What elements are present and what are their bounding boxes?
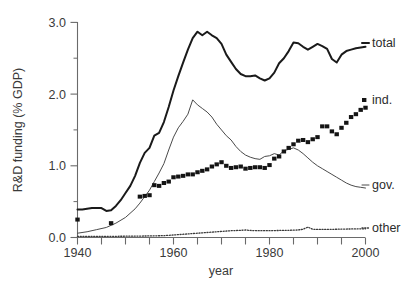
- data-point: [195, 170, 199, 174]
- series-label-other: other: [372, 221, 401, 235]
- data-point: [75, 218, 79, 222]
- chart-canvas: 0.0 1.0 2.0 3.0 1940 1960 1980 2000 R&D …: [0, 0, 415, 286]
- data-point: [176, 175, 180, 179]
- data-point: [243, 167, 247, 171]
- data-point: [277, 154, 281, 158]
- y-axis-minor-ticks: [74, 58, 78, 201]
- data-point: [287, 146, 291, 150]
- data-point: [152, 183, 156, 187]
- data-point: [186, 172, 190, 176]
- data-point: [234, 165, 238, 169]
- data-point: [258, 165, 262, 169]
- x-tick-label-2000: 2000: [352, 246, 380, 260]
- data-point: [363, 106, 367, 110]
- series-total-line: [78, 32, 366, 211]
- data-point: [359, 108, 363, 112]
- data-point: [138, 195, 142, 199]
- data-point: [239, 165, 243, 169]
- data-point: [306, 140, 310, 144]
- data-point: [267, 163, 271, 167]
- data-point: [191, 172, 195, 176]
- data-point: [272, 157, 276, 161]
- data-point: [282, 149, 286, 153]
- data-point: [325, 124, 329, 128]
- data-point: [171, 175, 175, 179]
- series-label-total: total: [372, 36, 396, 50]
- data-point: [224, 164, 228, 168]
- y-tick-label-3: 3.0: [49, 16, 66, 30]
- x-axis-title: year: [209, 264, 233, 278]
- series-ind-markers: [75, 106, 367, 225]
- y-tick-label-2: 2.0: [49, 88, 66, 102]
- x-axis-ticks: [78, 238, 366, 245]
- data-point: [354, 112, 358, 116]
- data-point: [205, 167, 209, 171]
- x-tick-label-1960: 1960: [160, 246, 188, 260]
- y-axis-title: R&D funding (% GDP): [11, 68, 25, 192]
- x-tick-label-1940: 1940: [64, 246, 92, 260]
- data-point: [200, 169, 204, 173]
- data-point: [291, 142, 295, 146]
- data-point: [339, 126, 343, 130]
- data-point: [162, 181, 166, 185]
- data-point: [167, 180, 171, 184]
- series-layer: [75, 32, 369, 237]
- series-gov-line: [78, 100, 366, 233]
- y-tick-label-1: 1.0: [49, 159, 66, 173]
- data-point: [229, 166, 233, 170]
- data-point: [330, 129, 334, 133]
- data-point: [263, 166, 267, 170]
- chart-figure: 0.0 1.0 2.0 3.0 1940 1960 1980 2000 R&D …: [0, 0, 415, 286]
- series-label-ind: ind.: [372, 93, 392, 107]
- x-tick-label-1980: 1980: [256, 246, 284, 260]
- data-point: [315, 135, 319, 139]
- data-point: [253, 165, 257, 169]
- series-other-line: [78, 227, 366, 236]
- data-point: [296, 139, 300, 143]
- data-point: [320, 124, 324, 128]
- series-leader-ind: [362, 98, 366, 102]
- data-point: [301, 138, 305, 142]
- y-tick-label-0: 0.0: [49, 231, 66, 245]
- series-label-gov: gov.: [372, 178, 395, 192]
- data-point: [210, 165, 214, 169]
- data-point: [311, 137, 315, 141]
- data-point: [143, 194, 147, 198]
- data-point: [219, 160, 223, 164]
- data-point: [344, 121, 348, 125]
- data-point: [181, 174, 185, 178]
- data-point: [248, 166, 252, 170]
- data-point: [157, 184, 161, 188]
- data-point: [335, 132, 339, 136]
- data-point: [349, 115, 353, 119]
- data-point: [215, 162, 219, 166]
- data-point: [147, 193, 151, 197]
- data-point: [109, 221, 113, 225]
